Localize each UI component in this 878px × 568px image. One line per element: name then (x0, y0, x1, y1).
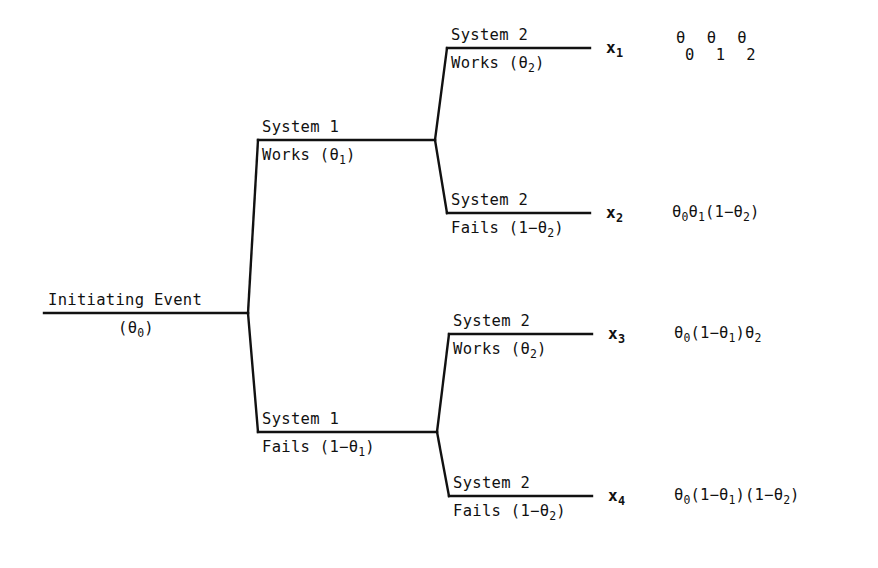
branch-label-system2-works-lower-name: System 2 (453, 314, 530, 330)
x2-index: 2 (616, 211, 623, 225)
outcome-probability-x2: θ0θ1(1−θ2) (672, 205, 760, 221)
outcome-probability-x3: θ0(1−θ1)θ2 (674, 326, 761, 342)
outcome-symbol-x2: x2 (606, 205, 623, 221)
s1w-close: ) (346, 146, 356, 164)
x2-p2-sub: 2 (743, 210, 750, 224)
s1w-word: Works (262, 146, 310, 164)
branch-label-system2-fails-upper-prob: Fails (1−θ2) (451, 221, 564, 237)
fork2-lower-fails-diagonal (437, 432, 449, 496)
x4-p1: (1−θ (690, 486, 728, 504)
tree-line-layer (0, 0, 878, 568)
s2fl-close: ) (556, 502, 566, 520)
s1w-sub: 1 (339, 153, 346, 167)
s1w-open: (θ (320, 146, 339, 164)
s2fu-close: ) (554, 219, 564, 237)
s2fu-sub: 2 (547, 226, 554, 240)
fork2-upper-fails-diagonal (435, 140, 447, 213)
x3-base: x (608, 324, 618, 343)
s2fl-sub: 2 (549, 509, 556, 523)
outcome-symbol-x3: x3 (608, 326, 625, 342)
x4-p0-sub: 0 (684, 493, 691, 507)
x2-base: x (606, 203, 616, 222)
x2-p0: θ (672, 203, 682, 221)
x4-p1-sub: 1 (729, 493, 736, 507)
s2fu-word: Fails (451, 219, 499, 237)
branch-label-system2-fails-upper-name: System 2 (451, 193, 528, 209)
s2wl-word: Works (453, 340, 501, 358)
x4-p3: ) (790, 486, 800, 504)
outcome-symbol-x1: x1 (606, 40, 623, 56)
x2-p2: (1−θ (705, 203, 743, 221)
x4-p2-sub: 2 (783, 493, 790, 507)
fork2-upper-works-diagonal (435, 48, 447, 140)
branch-label-system2-fails-lower-name: System 2 (453, 476, 530, 492)
fork2-lower-works-diagonal (437, 334, 449, 432)
root-probability: (θ0) (118, 321, 154, 337)
branch-label-system1-fails-prob: Fails (1−θ1) (262, 440, 375, 456)
branch-label-system1-works-name: System 1 (262, 120, 339, 136)
branch-label-system2-works-upper-prob: Works (θ2) (451, 56, 545, 72)
outcome-probability-x4: θ0(1−θ1)(1−θ2) (674, 488, 800, 504)
x3-p2: )θ (736, 324, 755, 342)
s1f-sub: 1 (358, 445, 365, 459)
x1-prob-row-bottom: 0 1 2 (676, 47, 762, 64)
s2fl-word: Fails (453, 502, 501, 520)
s2wu-open: (θ (509, 54, 528, 72)
fork1-lower-diagonal (248, 313, 258, 432)
x4-index: 4 (618, 494, 625, 508)
root-prob-open: (θ (118, 319, 137, 337)
s1f-close: ) (365, 438, 375, 456)
branch-label-system2-fails-lower-prob: Fails (1−θ2) (453, 504, 566, 520)
x4-base: x (608, 486, 618, 505)
fork1-upper-diagonal (248, 140, 258, 313)
x3-p0-sub: 0 (684, 331, 691, 345)
s1f-open: (1−θ (320, 438, 359, 456)
x2-p3: ) (750, 203, 760, 221)
s2wl-open: (θ (511, 340, 530, 358)
x1-prob-row-top: θ θ θ (676, 30, 762, 47)
s2wl-close: ) (537, 340, 547, 358)
s2fl-open: (1−θ (511, 502, 550, 520)
x4-p0: θ (674, 486, 684, 504)
root-prob-close: ) (144, 319, 154, 337)
root-label: Initiating Event (48, 293, 202, 309)
x2-p1: θ (688, 203, 698, 221)
x1-index: 1 (616, 46, 623, 60)
x3-p2-sub: 2 (755, 331, 762, 345)
s1f-word: Fails (262, 438, 310, 456)
branch-label-system2-works-upper-name: System 2 (451, 28, 528, 44)
s2wl-sub: 2 (530, 347, 537, 361)
branch-label-system1-fails-name: System 1 (262, 412, 339, 428)
x2-p1-sub: 1 (698, 210, 705, 224)
event-tree-diagram: Initiating Event (θ0) System 1 Works (θ1… (0, 0, 878, 568)
s2wu-close: ) (535, 54, 545, 72)
root-prob-sub: 0 (137, 326, 144, 340)
x2-p0-sub: 0 (682, 210, 689, 224)
x1-base: x (606, 38, 616, 57)
x3-p1-sub: 1 (729, 331, 736, 345)
outcome-probability-x1: θ θ θ 0 1 2 (676, 30, 762, 63)
s2wu-word: Works (451, 54, 499, 72)
x3-p1: (1−θ (690, 324, 728, 342)
branch-label-system2-works-lower-prob: Works (θ2) (453, 342, 547, 358)
outcome-symbol-x4: x4 (608, 488, 625, 504)
s2fu-open: (1−θ (509, 219, 548, 237)
x3-p0: θ (674, 324, 684, 342)
x3-index: 3 (618, 332, 625, 346)
branch-label-system1-works-prob: Works (θ1) (262, 148, 356, 164)
x4-p2: )(1−θ (736, 486, 784, 504)
s2wu-sub: 2 (528, 61, 535, 75)
